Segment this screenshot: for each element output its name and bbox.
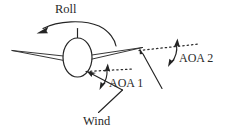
aoa-2-arrowhead-lower <box>168 59 175 67</box>
left-wing <box>12 51 64 61</box>
wind-leader-stem <box>99 90 123 113</box>
roll-label: Roll <box>55 3 77 16</box>
diagram-canvas <box>0 0 225 134</box>
aoa-2-label: AOA 2 <box>179 52 213 64</box>
wind-vector-inner-arrowhead <box>87 71 97 77</box>
right-wing <box>88 48 143 61</box>
wind-vector-outer-shaft <box>143 54 162 89</box>
wind-label: Wind <box>83 115 110 128</box>
aircraft-aoa-diagram: Roll AOA 1 AOA 2 Wind <box>0 0 225 134</box>
right-wing-leading-edge <box>89 48 143 56</box>
reference-line-outer <box>139 44 199 51</box>
right-wing-trailing-edge <box>88 48 143 61</box>
roll-arrowhead <box>37 27 49 34</box>
aoa-1-label: AOA 1 <box>109 77 143 89</box>
aoa-1-arrowhead-lower <box>100 82 107 90</box>
